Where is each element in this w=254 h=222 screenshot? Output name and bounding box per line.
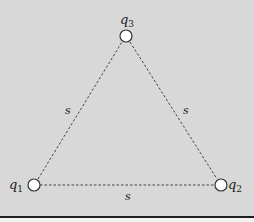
bottom-rule [0, 216, 254, 218]
charge-q1 [28, 179, 40, 191]
diagram-panel: q3 q1 q2 s s s [0, 0, 254, 217]
side-q1-q3 [38, 42, 122, 179]
side-label-bottom: s [125, 190, 131, 203]
charge-q3 [120, 30, 132, 42]
label-q3: q3 [120, 12, 134, 29]
label-q2: q2 [228, 177, 242, 194]
label-q1: q1 [9, 177, 23, 194]
charge-q2 [215, 179, 227, 191]
triangle-diagram: q3 q1 q2 s s s [0, 0, 254, 217]
side-label-right: s [183, 104, 189, 117]
side-q3-q2 [130, 42, 217, 179]
side-label-left: s [65, 104, 71, 117]
